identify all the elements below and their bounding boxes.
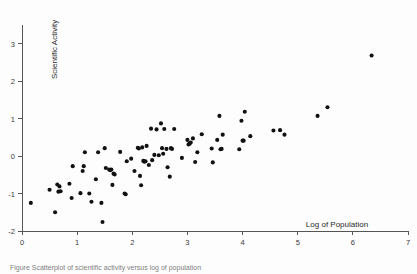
data-point [109, 167, 113, 171]
data-point [239, 119, 243, 123]
data-point [139, 183, 143, 187]
data-point [57, 184, 61, 188]
data-point [162, 127, 166, 131]
data-point [149, 127, 153, 131]
data-point [125, 159, 129, 163]
data-point [193, 160, 197, 164]
data-point [195, 150, 199, 154]
figure-caption: Figure Scatterplot of scientific activit… [10, 262, 340, 274]
data-point [138, 174, 142, 178]
data-point [59, 189, 63, 193]
data-point [191, 136, 195, 140]
data-point [210, 146, 214, 150]
data-point [211, 160, 215, 164]
x-tick-label-6: 6 [351, 238, 355, 247]
scatter-plot-figure: 012345673210-1-2 Scientific ActivityLog … [0, 0, 417, 274]
axes-group: 012345673210-1-2 [8, 25, 410, 247]
data-point [316, 114, 320, 118]
data-point [103, 146, 107, 150]
data-point [71, 164, 75, 168]
data-point [124, 192, 128, 196]
data-point [248, 134, 252, 138]
data-point [180, 156, 184, 160]
data-point [243, 110, 247, 114]
x-tick-label-7: 7 [406, 238, 410, 247]
y-tick-label-0: 0 [11, 152, 15, 161]
data-point [161, 152, 165, 156]
x-tick-label-3: 3 [185, 238, 189, 247]
data-point [113, 172, 117, 176]
data-point [110, 183, 114, 187]
data-point [325, 105, 329, 109]
data-point [150, 158, 154, 162]
data-point [87, 191, 91, 195]
x-tick-label-1: 1 [75, 238, 79, 247]
x-axis-title: Log of Population [306, 220, 368, 229]
data-point [242, 139, 246, 143]
x-tick-label-2: 2 [130, 238, 134, 247]
data-point [53, 210, 57, 214]
data-point [189, 140, 193, 144]
data-point [78, 191, 82, 195]
data-point [282, 133, 286, 137]
data-point [278, 128, 282, 132]
data-point [100, 220, 104, 224]
x-tick-label-5: 5 [296, 238, 300, 247]
y-tick-label--1: -1 [8, 190, 15, 199]
data-point [170, 147, 174, 151]
data-point [118, 150, 122, 154]
y-tick-label-3: 3 [11, 40, 15, 49]
data-point [81, 169, 85, 173]
data-point [67, 182, 71, 186]
data-point [172, 127, 176, 131]
data-point [221, 133, 225, 137]
data-point [83, 150, 87, 154]
axis-titles-group: Scientific ActivityLog of Population [50, 20, 368, 229]
data-point [143, 159, 147, 163]
data-point [29, 201, 33, 205]
data-point [129, 157, 133, 161]
data-point [370, 53, 374, 57]
data-point [147, 163, 151, 167]
y-tick-label--2: -2 [8, 227, 15, 236]
y-tick-label-1: 1 [11, 115, 15, 124]
data-point [160, 146, 164, 150]
data-point [152, 153, 156, 157]
data-point [96, 150, 100, 154]
data-point [271, 128, 275, 132]
data-point [220, 147, 224, 151]
data-point [48, 188, 52, 192]
data-point [94, 177, 98, 181]
x-tick-label-0: 0 [20, 238, 24, 247]
data-point [215, 138, 219, 142]
y-axis-title: Scientific Activity [50, 20, 59, 79]
data-point [200, 132, 204, 136]
data-point [217, 114, 221, 118]
data-point [166, 165, 170, 169]
data-point [159, 121, 163, 125]
data-point [237, 147, 241, 151]
data-point [155, 127, 159, 131]
y-tick-label-2: 2 [11, 77, 15, 86]
plot-canvas: 012345673210-1-2 Scientific ActivityLog … [0, 0, 417, 274]
data-point [70, 196, 74, 200]
data-point [157, 153, 161, 157]
data-point [82, 164, 86, 168]
data-point [168, 175, 172, 179]
data-point [99, 201, 103, 205]
data-point [145, 144, 149, 148]
data-point [89, 200, 93, 204]
data-point [164, 147, 168, 151]
data-point [185, 138, 189, 142]
data-point [140, 145, 144, 149]
data-markers-group [29, 53, 374, 224]
x-tick-label-4: 4 [240, 238, 244, 247]
data-point [132, 169, 136, 173]
